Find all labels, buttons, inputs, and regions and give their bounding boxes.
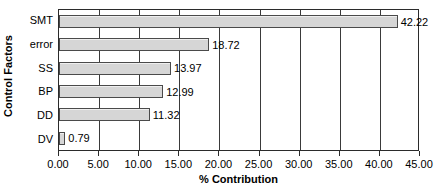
bar[interactable]: [59, 38, 209, 51]
bar-row: 12.99: [59, 80, 418, 103]
bar-row: 0.79: [59, 127, 418, 150]
bar[interactable]: [59, 85, 163, 98]
y-axis-tick-label: DD: [14, 104, 56, 128]
bar-value-label: 13.97: [174, 63, 202, 74]
y-axis-tick-label: BP: [14, 80, 56, 104]
bar-chart: Control Factors SMTerrorSSBPDDDV 42.2218…: [0, 0, 448, 193]
bar-row: 18.72: [59, 33, 418, 56]
bar[interactable]: [59, 15, 398, 28]
x-axis-tick-label: 20.00: [205, 157, 233, 171]
bar-row: 13.97: [59, 57, 418, 80]
bar-value-label: 18.72: [212, 39, 240, 50]
y-axis-tick-labels: SMTerrorSSBPDDDV: [14, 9, 56, 151]
x-axis-tick-label: 10.00: [124, 157, 152, 171]
bar-row: 42.22: [59, 10, 418, 33]
x-axis-title: % Contribution: [58, 173, 419, 185]
y-axis-title-text: Control Factors: [2, 35, 14, 117]
bar-value-label: 42.22: [401, 16, 429, 27]
x-axis-tick-label: 15.00: [165, 157, 193, 171]
x-axis-tick-label: 35.00: [325, 157, 353, 171]
plot-area: 42.2218.7213.9712.9911.320.79: [58, 9, 419, 151]
y-axis-tick-label: SMT: [14, 9, 56, 33]
x-axis-tick-mark: [178, 151, 179, 156]
x-axis-tick-mark: [58, 151, 59, 156]
x-axis-tick-mark: [218, 151, 219, 156]
x-axis-tick-labels: 0.005.0010.0015.0020.0025.0030.0035.0040…: [58, 157, 419, 171]
bar-row: 11.32: [59, 103, 418, 126]
x-axis-tick-label: 0.00: [47, 157, 68, 171]
x-axis-tick-label: 5.00: [87, 157, 108, 171]
bar-value-label: 12.99: [166, 86, 194, 97]
x-axis-tick-mark: [299, 151, 300, 156]
bar[interactable]: [59, 62, 171, 75]
x-axis-tick-label: 30.00: [285, 157, 313, 171]
x-axis-tick-mark: [98, 151, 99, 156]
bar[interactable]: [59, 132, 65, 145]
bar[interactable]: [59, 108, 150, 121]
x-axis-tick-mark: [339, 151, 340, 156]
y-axis-tick-label: SS: [14, 56, 56, 80]
bar-value-label: 11.32: [153, 109, 180, 120]
x-axis-tick-label: 25.00: [245, 157, 273, 171]
y-axis-tick-label: DV: [14, 127, 56, 151]
bars-layer: 42.2218.7213.9712.9911.320.79: [59, 10, 418, 150]
x-axis-tick-marks: [58, 151, 419, 156]
x-axis-tick-mark: [138, 151, 139, 156]
x-axis-tick-mark: [419, 151, 420, 156]
y-axis-tick-label: error: [14, 33, 56, 57]
x-axis-tick-label: 45.00: [405, 157, 433, 171]
x-axis-tick-mark: [379, 151, 380, 156]
bar-value-label: 0.79: [68, 133, 89, 144]
x-axis-tick-mark: [259, 151, 260, 156]
x-axis-tick-label: 40.00: [365, 157, 393, 171]
